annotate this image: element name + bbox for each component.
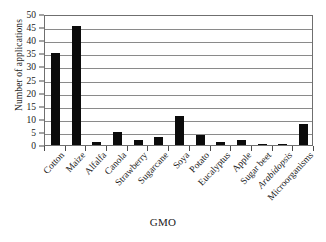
y-tick-label: 35 xyxy=(27,49,37,59)
bar xyxy=(175,116,184,145)
x-axis-tick-labels: CottonMaizeAlfalfaCanolaStrawberrySugarc… xyxy=(0,150,326,212)
x-tick-label: Cotton xyxy=(42,150,67,176)
bar xyxy=(196,135,205,145)
bar xyxy=(51,53,60,145)
plot-area xyxy=(44,15,313,146)
y-tick-label: 45 xyxy=(27,23,37,33)
bar xyxy=(258,144,267,145)
y-tick-label: 15 xyxy=(27,102,37,112)
y-tick-label: 50 xyxy=(27,10,37,20)
bar xyxy=(278,144,287,145)
bar xyxy=(134,140,143,145)
bar xyxy=(92,142,101,145)
y-tick-label: 30 xyxy=(27,62,37,72)
bar xyxy=(113,132,122,145)
bar-series xyxy=(45,16,312,145)
bar xyxy=(154,137,163,145)
bar xyxy=(216,142,225,145)
x-tick-label: Alfalfa xyxy=(82,150,108,176)
bar xyxy=(299,124,308,145)
x-axis-title: GMO xyxy=(0,216,326,228)
y-axis-tick-labels: 05101520253035404550 xyxy=(0,15,44,146)
y-tick-label: 5 xyxy=(31,128,36,138)
bar xyxy=(72,26,81,145)
y-tick-label: 40 xyxy=(27,36,37,46)
y-tick-label: 10 xyxy=(27,115,37,125)
y-tick-label: 25 xyxy=(27,76,37,86)
y-tick-label: 20 xyxy=(27,89,37,99)
chart-figure: Number of applications 05101520253035404… xyxy=(0,0,326,242)
bar xyxy=(237,140,246,145)
